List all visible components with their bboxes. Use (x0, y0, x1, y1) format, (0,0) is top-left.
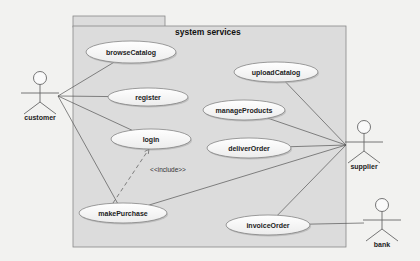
use-case-label-manageProducts: manageProducts (216, 107, 273, 114)
use-case-label-register: register (135, 94, 161, 101)
use-case-diagram: system services <<include>>browseCatalog… (0, 0, 420, 261)
actor-label-customer: customer (24, 114, 56, 121)
actor-bank[interactable] (363, 199, 401, 242)
use-case-label-login: login (143, 136, 160, 143)
actor-supplier[interactable] (345, 121, 383, 164)
diagram-graphics (0, 0, 420, 261)
actor-label-supplier: supplier (350, 163, 377, 170)
use-case-label-browseCatalog: browseCatalog (106, 49, 156, 56)
use-case-label-uploadCatalog: uploadCatalog (252, 69, 301, 76)
actor-customer[interactable] (21, 72, 59, 115)
use-case-label-invoiceOrder: invoiceOrder (246, 222, 289, 229)
use-case-label-makePurchase: makePurchase (98, 210, 147, 217)
use-case-label-deliverOrder: deliverOrder (228, 145, 270, 152)
include-stereotype-label: <<include>> (150, 166, 186, 173)
package-title: system services (175, 27, 241, 37)
actor-label-bank: bank (374, 241, 390, 248)
